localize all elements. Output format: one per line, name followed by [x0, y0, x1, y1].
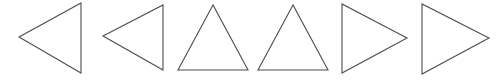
triangle-row-svg	[0, 0, 502, 80]
shape-diagram-canvas	[0, 0, 502, 80]
canvas-background	[0, 0, 502, 80]
